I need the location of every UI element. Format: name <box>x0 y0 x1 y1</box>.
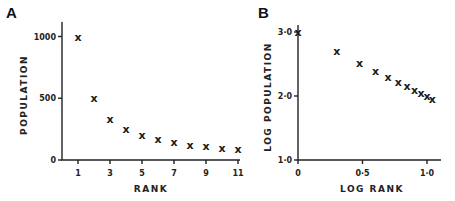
y-tick-label: 2·0 <box>278 92 293 101</box>
data-point-x-marker: x <box>429 93 436 106</box>
panel-a-data-points: xxxxxxxxxxx <box>74 31 241 156</box>
data-point-x-marker: x <box>333 45 340 58</box>
data-point-x-marker: x <box>403 80 410 93</box>
data-point-x-marker: x <box>154 133 161 146</box>
panel-b-y-axis-label: LOG POPULATION <box>263 42 273 151</box>
x-tick-label: 7 <box>171 169 177 178</box>
panel-b-data-points: xxxxxxxxxxx <box>294 26 435 106</box>
panel-a-letter: A <box>6 4 17 21</box>
x-tick-label: 5 <box>139 169 145 178</box>
x-tick-label: 9 <box>203 169 209 178</box>
data-point-x-marker: x <box>218 142 225 155</box>
panel-b-x-ticks: 00·51·0 <box>295 160 434 178</box>
panel-b-x-axis-label: LOG RANK <box>340 184 404 194</box>
y-tick-label: 500 <box>39 94 56 103</box>
data-point-x-marker: x <box>356 57 363 70</box>
panel-b-letter: B <box>258 4 269 21</box>
x-tick-label: 1 <box>75 169 81 178</box>
data-point-x-marker: x <box>294 26 301 39</box>
data-point-x-marker: x <box>385 71 392 84</box>
y-tick-label: 1000 <box>34 33 57 42</box>
y-tick-label: 1·0 <box>278 156 293 165</box>
x-tick-label: 0·5 <box>355 169 370 178</box>
x-tick-label: 0 <box>295 169 301 178</box>
x-tick-label: 1·0 <box>420 169 435 178</box>
panel-b-y-ticks: 1·02·03·0 <box>278 28 298 165</box>
panel-a-x-ticks: 1357911 <box>75 160 244 178</box>
data-point-x-marker: x <box>372 65 379 78</box>
data-point-x-marker: x <box>170 136 177 149</box>
panel-a-y-axis-label: POPULATION <box>19 55 29 135</box>
figure: A 05001000 1357911 xxxxxxxxxxx RANK POPU… <box>0 0 455 201</box>
data-point-x-marker: x <box>138 129 145 142</box>
data-point-x-marker: x <box>122 123 129 136</box>
y-tick-label: 0 <box>50 156 56 165</box>
data-point-x-marker: x <box>395 76 402 89</box>
data-point-x-marker: x <box>106 113 113 126</box>
x-tick-label: 11 <box>232 169 244 178</box>
data-point-x-marker: x <box>186 139 193 152</box>
panel-a-axes <box>62 22 240 160</box>
panel-a-x-axis-label: RANK <box>134 184 168 194</box>
panel-a-rank-population: A 05001000 1357911 xxxxxxxxxxx RANK POPU… <box>6 4 244 194</box>
panel-b-log-rank-log-population: B 1·02·03·0 00·51·0 xxxxxxxxxxx LOG RANK… <box>258 4 441 194</box>
data-point-x-marker: x <box>202 140 209 153</box>
panel-a-y-ticks: 05001000 <box>34 33 62 166</box>
data-point-x-marker: x <box>90 92 97 105</box>
data-point-x-marker: x <box>234 143 241 156</box>
y-tick-label: 3·0 <box>278 28 293 37</box>
x-tick-label: 3 <box>107 169 113 178</box>
data-point-x-marker: x <box>74 31 81 44</box>
